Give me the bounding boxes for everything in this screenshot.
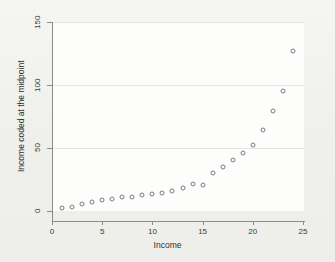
data-point: [130, 194, 135, 199]
y-tick: [47, 85, 52, 86]
y-axis-title: Income coded at the midpoint: [16, 22, 26, 211]
data-point: [160, 191, 165, 196]
data-point: [90, 200, 95, 205]
data-point: [240, 151, 245, 156]
y-axis-line: [52, 22, 53, 221]
x-tick-label: 10: [148, 227, 157, 236]
x-tick-label: 15: [198, 227, 207, 236]
data-point: [110, 197, 115, 202]
data-point: [150, 191, 155, 196]
x-tick-label: 5: [100, 227, 104, 236]
y-tick-label: 0: [33, 201, 42, 221]
x-tick: [253, 221, 254, 225]
data-point: [60, 206, 65, 211]
data-point: [290, 48, 295, 53]
x-tick: [303, 221, 304, 225]
figure-panel: 050100150 0510152025 Income coded at the…: [0, 0, 335, 262]
x-tick-label: 20: [248, 227, 257, 236]
x-tick: [52, 221, 53, 225]
data-point: [140, 193, 145, 198]
data-point: [230, 157, 235, 162]
data-point: [180, 185, 185, 190]
data-point: [250, 143, 255, 148]
y-tick-label: 100: [33, 75, 42, 95]
x-tick: [152, 221, 153, 225]
x-tick: [102, 221, 103, 225]
x-axis-title: Income: [0, 240, 335, 250]
y-tick: [47, 211, 52, 212]
y-tick-label: 150: [33, 12, 42, 32]
y-tick-label: 50: [33, 138, 42, 158]
data-point: [100, 198, 105, 203]
data-point: [190, 181, 195, 186]
y-tick: [47, 22, 52, 23]
x-tick-label: 0: [50, 227, 54, 236]
data-point: [220, 164, 225, 169]
data-point: [210, 171, 215, 176]
gridline: [53, 22, 304, 23]
data-point: [200, 182, 205, 187]
data-point: [70, 204, 75, 209]
plot-area: [52, 22, 304, 211]
data-point: [270, 108, 275, 113]
data-point: [170, 188, 175, 193]
gridline: [53, 85, 304, 86]
y-tick: [47, 148, 52, 149]
x-axis-line: [52, 221, 305, 222]
data-point: [260, 128, 265, 133]
gridline: [53, 148, 304, 149]
data-point: [120, 195, 125, 200]
x-tick: [203, 221, 204, 225]
data-point: [80, 202, 85, 207]
data-point: [280, 89, 285, 94]
x-tick-label: 25: [299, 227, 308, 236]
